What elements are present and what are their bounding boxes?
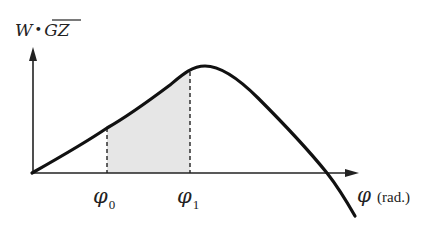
stability-diagram: W•GZ φ0 φ1 φ(rad.)	[0, 0, 445, 227]
x-axis-label: φ(rad.)	[357, 183, 410, 207]
shaded-area	[107, 72, 190, 173]
y-axis-label: W•GZ	[15, 20, 71, 40]
righting-moment-curve	[32, 66, 355, 216]
phi1-label: φ1	[177, 184, 199, 212]
y-axis-arrow-icon	[29, 47, 37, 61]
phi0-label: φ0	[93, 184, 115, 212]
x-axis-arrow-icon	[345, 169, 359, 177]
